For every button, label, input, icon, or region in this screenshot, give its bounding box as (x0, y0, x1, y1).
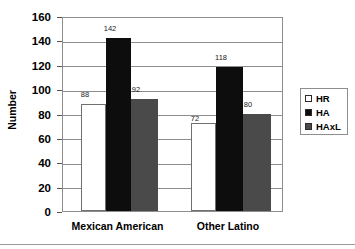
y-tick-label-80: 80 (5, 110, 51, 122)
y-tick-label-60: 60 (5, 134, 51, 146)
bar-value-mexican-american-ha: 142 (95, 25, 125, 33)
bar-other-latino-hr (191, 123, 216, 211)
bar-mexican-american-hr (81, 104, 106, 211)
y-tick-label-160: 160 (5, 12, 51, 24)
plot-area (62, 17, 283, 212)
legend-item-ha: HA (305, 106, 330, 119)
y-tick-label-40: 40 (5, 158, 51, 170)
y-tick-label-20: 20 (5, 183, 51, 195)
bar-other-latino-ha (216, 67, 243, 211)
legend-label-haxl: HAxL (316, 122, 341, 132)
y-tick-mark-0 (57, 212, 62, 213)
y-tick-label-0: 0 (5, 207, 51, 219)
legend-swatch-hr-icon (305, 95, 312, 102)
y-tick-label-120: 120 (5, 61, 51, 73)
bar-chart: Number 160 140 120 100 80 60 40 20 0 88 … (0, 0, 355, 249)
legend-item-hr: HR (305, 92, 330, 105)
bar-value-other-latino-haxl: 80 (233, 101, 263, 109)
bar-value-other-latino-hr: 72 (180, 115, 210, 123)
bar-mexican-american-ha (106, 38, 131, 211)
gridline-140 (63, 42, 282, 43)
bar-other-latino-haxl (243, 114, 271, 212)
x-category-label-mexican-american: Mexican American (62, 220, 173, 232)
legend-label-ha: HA (316, 108, 330, 118)
y-tick-label-140: 140 (5, 36, 51, 48)
legend-swatch-ha-icon (305, 109, 312, 116)
bar-value-mexican-american-haxl: 92 (121, 86, 151, 94)
legend-label-hr: HR (316, 94, 330, 104)
bar-value-other-latino-ha: 118 (206, 54, 236, 62)
x-category-label-other-latino: Other Latino (173, 220, 283, 232)
y-tick-label-100: 100 (5, 85, 51, 97)
bottom-divider (0, 244, 355, 245)
bar-value-mexican-american-hr: 88 (70, 91, 100, 99)
legend-item-haxl: HAxL (305, 120, 341, 133)
gridline-120 (63, 66, 282, 67)
legend-swatch-haxl-icon (305, 123, 312, 130)
legend: HR HA HAxL (300, 88, 348, 135)
bar-mexican-american-haxl (131, 99, 158, 211)
